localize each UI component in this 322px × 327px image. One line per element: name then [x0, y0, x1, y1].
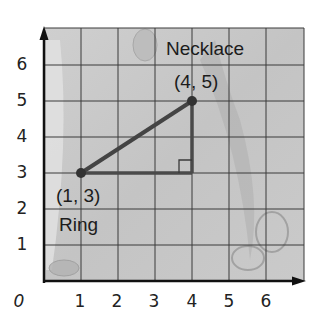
y-tick-label: 1	[17, 234, 28, 254]
x-tick-labels: 0 1 2 3 4 5 6	[14, 291, 272, 311]
grid-background	[44, 28, 304, 281]
x-tick-label: 5	[224, 291, 235, 311]
x-tick-label: 4	[187, 291, 198, 311]
x-tick-label: 6	[261, 291, 272, 311]
y-tick-label: 6	[17, 54, 28, 74]
y-tick-labels: 1 2 3 4 5 6	[17, 54, 28, 254]
x-tick-label: 3	[149, 291, 160, 311]
origin-label: 0	[14, 291, 25, 311]
x-tick-label: 2	[112, 291, 123, 311]
water-drop-decoration	[49, 260, 79, 276]
necklace-point	[187, 96, 197, 106]
necklace-label: Necklace	[166, 38, 244, 59]
water-drop-decoration	[133, 29, 157, 61]
ring-point	[76, 168, 86, 178]
ring-coord-label: (1, 3)	[56, 185, 100, 206]
y-tick-label: 5	[17, 90, 28, 110]
x-tick-label: 1	[75, 291, 86, 311]
y-tick-label: 2	[17, 198, 28, 218]
y-tick-label: 3	[17, 162, 28, 182]
ring-label: Ring	[59, 214, 98, 235]
coordinate-plane-figure: Necklace (4, 5) (1, 3) Ring 1 2 3 4 5 6 …	[0, 0, 322, 327]
necklace-coord-label: (4, 5)	[174, 71, 218, 92]
y-tick-label: 4	[17, 126, 28, 146]
